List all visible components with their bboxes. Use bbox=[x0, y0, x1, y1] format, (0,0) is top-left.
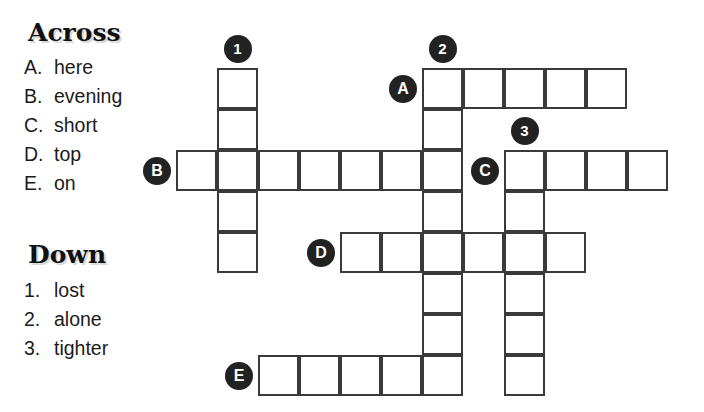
grid-cell[interactable] bbox=[258, 150, 299, 191]
grid-cell[interactable] bbox=[504, 273, 545, 314]
grid-cell[interactable] bbox=[463, 232, 504, 273]
grid-cell[interactable] bbox=[340, 150, 381, 191]
grid-cell[interactable] bbox=[504, 191, 545, 232]
grid-cell[interactable] bbox=[504, 355, 545, 396]
grid-cell[interactable] bbox=[463, 68, 504, 109]
entry-marker-3[interactable]: 3 bbox=[511, 117, 539, 145]
grid-cell[interactable] bbox=[545, 150, 586, 191]
entry-marker-e[interactable]: E bbox=[225, 362, 253, 390]
grid-cell[interactable] bbox=[422, 191, 463, 232]
entry-marker-d[interactable]: D bbox=[307, 239, 335, 267]
grid-cell[interactable] bbox=[299, 355, 340, 396]
entry-marker-c[interactable]: C bbox=[471, 157, 499, 185]
grid-cell[interactable] bbox=[504, 232, 545, 273]
entry-marker-a[interactable]: A bbox=[389, 75, 417, 103]
grid-cell[interactable] bbox=[504, 314, 545, 355]
grid-cell[interactable] bbox=[545, 232, 586, 273]
grid-cell[interactable] bbox=[422, 150, 463, 191]
grid-cell[interactable] bbox=[217, 150, 258, 191]
grid-cell[interactable] bbox=[422, 355, 463, 396]
grid-cell[interactable] bbox=[504, 68, 545, 109]
grid-cell[interactable] bbox=[422, 109, 463, 150]
grid-cell[interactable] bbox=[176, 150, 217, 191]
entry-marker-1[interactable]: 1 bbox=[224, 35, 252, 63]
grid-cell[interactable] bbox=[217, 191, 258, 232]
grid-cell[interactable] bbox=[586, 150, 627, 191]
grid-cell[interactable] bbox=[381, 150, 422, 191]
crossword-grid[interactable]: 123ABCDE bbox=[0, 0, 704, 412]
grid-cell[interactable] bbox=[422, 232, 463, 273]
crossword-puzzle: Across A. here B. evening C. short D. to… bbox=[0, 0, 704, 412]
grid-cell[interactable] bbox=[217, 109, 258, 150]
entry-marker-2[interactable]: 2 bbox=[429, 35, 457, 63]
grid-cell[interactable] bbox=[340, 355, 381, 396]
grid-cell[interactable] bbox=[422, 273, 463, 314]
grid-cell[interactable] bbox=[299, 150, 340, 191]
grid-cell[interactable] bbox=[217, 232, 258, 273]
grid-cell[interactable] bbox=[217, 68, 258, 109]
grid-cell[interactable] bbox=[258, 355, 299, 396]
grid-cell[interactable] bbox=[422, 314, 463, 355]
grid-cell[interactable] bbox=[545, 68, 586, 109]
grid-cell[interactable] bbox=[340, 232, 381, 273]
grid-cell[interactable] bbox=[422, 68, 463, 109]
grid-cell[interactable] bbox=[586, 68, 627, 109]
entry-marker-b[interactable]: B bbox=[143, 157, 171, 185]
grid-cell[interactable] bbox=[381, 355, 422, 396]
grid-cell[interactable] bbox=[381, 232, 422, 273]
grid-cell[interactable] bbox=[504, 150, 545, 191]
grid-cell[interactable] bbox=[627, 150, 668, 191]
